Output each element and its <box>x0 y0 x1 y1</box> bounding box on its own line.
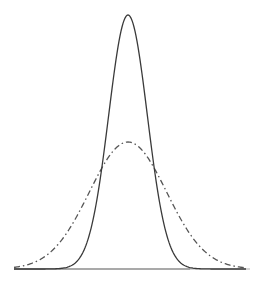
wide-curve <box>14 142 246 268</box>
normal-distribution-chart <box>0 0 263 282</box>
